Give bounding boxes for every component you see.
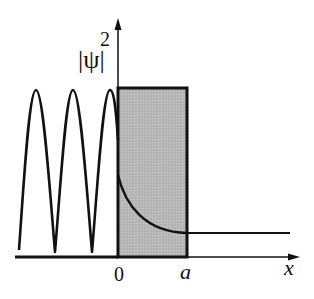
tick-label-a: a [180,259,191,284]
incident-wave-curve [19,90,118,252]
x-axis-label: x [283,255,294,280]
tunneling-diagram: |ψ| 2 0 a x [0,0,314,299]
y-axis-exponent: 2 [100,28,110,50]
tick-label-origin: 0 [114,263,124,285]
y-axis-arrow-icon [115,18,122,30]
